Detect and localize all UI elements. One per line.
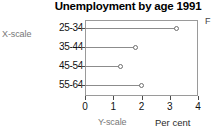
stem-25-34 [85,28,177,29]
x-axis-tick-label-4: 4 [190,101,206,112]
x-axis-tick-2 [142,96,143,100]
y-scale-callout-label: Y-scale [98,117,126,127]
corner-letter-label: F [205,16,211,26]
stem-55-64 [85,85,142,86]
x-axis-tick-3 [170,96,171,100]
category-label-45-54: 45-54 [50,60,83,71]
chart-title: Unemployment by age 1991 [36,0,220,12]
x-axis-tick-1 [113,96,114,100]
x-axis-title: Per cent [155,117,190,128]
chart-container: Unemployment by age 1991 F X-scale Y-sca… [0,0,220,133]
x-scale-callout-label: X-scale [2,29,31,39]
x-axis-tick-label-3: 3 [162,101,178,112]
x-axis-tick-4 [198,96,199,100]
stem-45-54 [85,66,120,67]
x-axis-tick-label-0: 0 [77,101,93,112]
x-axis-tick-label-1: 1 [105,101,121,112]
data-point-45-54[interactable] [118,64,123,69]
category-label-25-34: 25-34 [50,22,83,33]
stem-35-44 [85,47,136,48]
category-label-35-44: 35-44 [50,41,83,52]
x-axis-tick-0 [85,96,86,100]
data-point-55-64[interactable] [139,83,144,88]
data-point-35-44[interactable] [133,45,138,50]
data-point-25-34[interactable] [174,26,179,31]
x-axis-tick-label-2: 2 [134,101,150,112]
category-label-55-64: 55-64 [50,79,83,90]
